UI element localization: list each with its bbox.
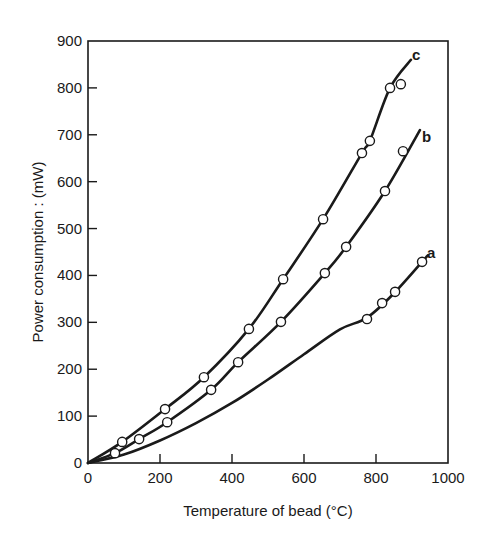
data-point-b bbox=[398, 147, 407, 156]
curve-b bbox=[88, 130, 420, 463]
x-tick-label: 200 bbox=[147, 469, 172, 486]
y-tick-label: 500 bbox=[57, 220, 82, 237]
y-tick-label: 800 bbox=[57, 79, 82, 96]
curve-label-a: a bbox=[427, 244, 436, 261]
data-point-b bbox=[342, 242, 351, 251]
data-point-b bbox=[207, 385, 216, 394]
data-point-a bbox=[378, 299, 387, 308]
data-point-c bbox=[365, 136, 374, 145]
data-point-b bbox=[163, 418, 172, 427]
data-point-a bbox=[390, 287, 399, 296]
x-tick-label: 400 bbox=[219, 469, 244, 486]
y-tick-label: 400 bbox=[57, 266, 82, 283]
y-axis-title: Power consumption : (mW) bbox=[29, 162, 46, 343]
data-point-c bbox=[160, 404, 169, 413]
y-tick-label: 200 bbox=[57, 360, 82, 377]
plot-frame bbox=[88, 41, 448, 463]
curve-c bbox=[88, 60, 411, 463]
data-point-c bbox=[318, 215, 327, 224]
x-tick-label: 800 bbox=[363, 469, 388, 486]
data-point-b bbox=[110, 449, 119, 458]
data-point-b bbox=[320, 269, 329, 278]
data-point-c bbox=[385, 83, 394, 92]
curves bbox=[88, 60, 428, 463]
power-vs-temperature-chart: 0200400600800100001002003004005006007008… bbox=[0, 0, 480, 542]
data-point-b bbox=[234, 358, 243, 367]
data-point-c bbox=[244, 324, 253, 333]
x-axis-title: Temperature of bead (°C) bbox=[183, 502, 352, 519]
data-point-b bbox=[276, 317, 285, 326]
axis-tick-labels: 0200400600800100001002003004005006007008… bbox=[57, 32, 465, 486]
data-point-a bbox=[362, 314, 371, 323]
y-tick-label: 0 bbox=[74, 454, 82, 471]
y-tick-label: 600 bbox=[57, 173, 82, 190]
y-tick-label: 700 bbox=[57, 126, 82, 143]
data-point-c bbox=[199, 373, 208, 382]
data-point-c bbox=[279, 275, 288, 284]
curve-label-c: c bbox=[412, 46, 420, 63]
x-tick-label: 1000 bbox=[431, 469, 464, 486]
data-points bbox=[110, 80, 426, 458]
curve-label-b: b bbox=[422, 128, 431, 145]
axis-ticks bbox=[88, 88, 376, 463]
data-point-c bbox=[118, 437, 127, 446]
data-point-c bbox=[357, 148, 366, 157]
data-point-c bbox=[396, 80, 405, 89]
data-point-a bbox=[417, 257, 426, 266]
y-tick-label: 300 bbox=[57, 313, 82, 330]
y-tick-label: 900 bbox=[57, 32, 82, 49]
data-point-b bbox=[135, 434, 144, 443]
curve-a bbox=[88, 255, 428, 463]
data-point-b bbox=[380, 186, 389, 195]
x-tick-label: 600 bbox=[291, 469, 316, 486]
y-tick-label: 100 bbox=[57, 407, 82, 424]
x-tick-label: 0 bbox=[84, 469, 92, 486]
